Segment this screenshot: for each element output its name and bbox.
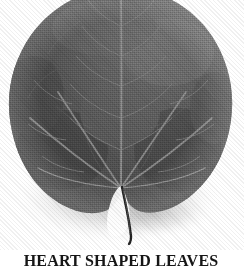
- figure-page: HEART SHAPED LEAVES: [0, 0, 244, 268]
- figure-caption: HEART SHAPED LEAVES: [0, 253, 244, 268]
- leaf-photo-plate: [0, 0, 244, 250]
- leaf-illustration: [0, 0, 244, 250]
- figure-caption-text: HEART SHAPED LEAVES: [0, 253, 244, 268]
